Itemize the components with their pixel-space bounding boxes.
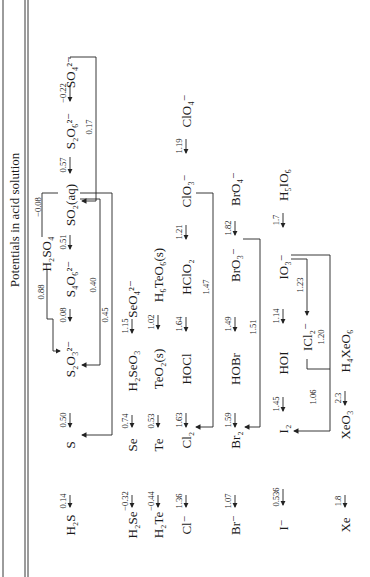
- potential: 1.20: [317, 330, 326, 345]
- potential: 0.08: [59, 308, 68, 323]
- species-h2te: H₂Te: [152, 512, 165, 539]
- species-clo3: ClO₃⁻: [180, 174, 193, 207]
- potential: 1.19: [175, 139, 184, 154]
- species-clo4: ClO₄⁻: [180, 94, 193, 127]
- species-hclo2: HClO₂: [180, 259, 193, 295]
- species-h2se: H₂Se: [126, 512, 139, 539]
- potential: 1.63: [175, 413, 184, 428]
- potential: −0.22: [59, 83, 68, 103]
- species-s2o6: S₂O₆²⁻: [64, 113, 77, 149]
- species-h2so4: H₂SO₄: [40, 236, 53, 271]
- potential: 1.36: [175, 494, 184, 509]
- species-s: S: [64, 441, 77, 448]
- species-h2seo3: H₂SeO₃: [126, 351, 139, 392]
- potential: 1.23: [296, 278, 305, 293]
- species-s4o6: S₄O₆²⁻: [64, 261, 77, 297]
- species-br: Br⁻: [229, 515, 242, 535]
- species-br2: Br₂: [229, 431, 242, 449]
- potential: 1.07: [224, 494, 233, 509]
- potential: 1.59: [224, 413, 233, 428]
- species-seo4: SeO₄²⁻: [126, 280, 139, 318]
- potential: 0.14: [59, 494, 68, 509]
- latimer-diagram-page: Potentials in acid solution H₂S S S₂O₃²⁻…: [0, 0, 370, 577]
- species-hoi: HOI: [277, 351, 290, 374]
- species-se: Se: [126, 439, 139, 452]
- potential: 1.06: [309, 390, 318, 405]
- species-s2o3: S₂O₃²⁻: [64, 341, 77, 377]
- potential: 1.02: [147, 315, 156, 330]
- species-h2s: H₂S: [64, 514, 77, 535]
- potential: 2.3: [334, 393, 343, 404]
- potential: 1.49: [224, 317, 233, 332]
- page-title: Potentials in acid solution: [7, 153, 23, 288]
- species-i: I⁻: [277, 519, 290, 530]
- species-cl: Cl⁻: [180, 515, 193, 534]
- potential: 1.7: [272, 215, 281, 226]
- potential: −0.44: [147, 491, 156, 511]
- species-so2: SO₂(aq): [64, 184, 77, 226]
- potential: 0.57: [59, 158, 68, 173]
- species-teo2: TeO₂(s): [152, 349, 165, 389]
- potential: 1.47: [202, 280, 211, 295]
- species-icl2: ICl₂⁻: [301, 323, 314, 351]
- species-bro3: BrO₃⁻: [229, 248, 242, 282]
- potential: 1.8: [334, 496, 343, 507]
- species-hocl: HOCl: [180, 353, 193, 384]
- species-xe: Xe: [339, 517, 352, 532]
- potential: 1.15: [121, 319, 130, 334]
- potential: 1.82: [224, 221, 233, 236]
- potential: 0.17: [85, 120, 94, 135]
- species-hobr: HOBr: [229, 353, 242, 385]
- species-te: Te: [152, 439, 165, 452]
- species-io3: IO₃⁻: [277, 254, 290, 279]
- potential: 0.536: [272, 487, 281, 506]
- species-h5io6: H₅IO₆: [277, 169, 290, 201]
- species-h4xeo6: H₄XeO₆: [339, 330, 352, 373]
- potential: 1.45: [272, 397, 281, 412]
- potential: 0.45: [101, 308, 110, 323]
- species-i2: I₂: [277, 425, 290, 434]
- potential: −0.08: [34, 197, 43, 217]
- potential: 0.40: [89, 278, 98, 293]
- potential: 0.51: [59, 235, 68, 250]
- potential: 0.50: [59, 413, 68, 428]
- potential: 1.14: [272, 309, 281, 324]
- potential: 1.21: [175, 225, 184, 240]
- potential: 0.74: [121, 414, 130, 429]
- potential: 1.64: [175, 317, 184, 332]
- species-cl2: Cl₂: [180, 432, 193, 449]
- potential: −0.32: [121, 491, 130, 511]
- species-bro4: BrO₄⁻: [229, 172, 242, 206]
- species-xeo3: XeO₃: [339, 410, 352, 439]
- potential: 0.88: [37, 285, 46, 300]
- species-h6teo6: H₆TeO₆(s): [152, 248, 165, 302]
- potential: 1.51: [249, 320, 258, 335]
- potential: 0.53: [147, 414, 156, 429]
